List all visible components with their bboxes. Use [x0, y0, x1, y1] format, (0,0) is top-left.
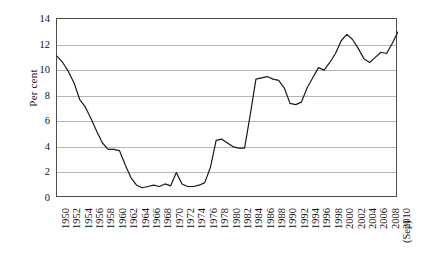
y-axis-tick-labels: 02468101214: [24, 11, 50, 201]
plot-area: [56, 18, 397, 197]
x-axis-tick-label: 1952: [71, 208, 82, 229]
x-axis-tick-label: 1970: [174, 208, 185, 229]
x-axis-tick-label: 1966: [151, 208, 162, 229]
x-axis-tick-label: 1988: [276, 208, 287, 229]
x-axis-tick-label: 1974: [196, 208, 207, 229]
x-axis-tick-label: 1976: [208, 208, 219, 229]
x-axis-tick-label: 1950: [60, 208, 71, 229]
x-axis-tick-label: 1980: [231, 208, 242, 229]
x-axis-tick-label: 1986: [265, 208, 276, 229]
x-axis-tick-label: 1956: [94, 208, 105, 229]
x-axis-tick-label: 1958: [105, 208, 116, 229]
x-axis-tick-labels: (Sep) 1950195219541956195819601962196419…: [56, 199, 397, 244]
x-axis-tick-label: 1990: [287, 208, 298, 229]
x-axis-tick-label: 2008: [390, 208, 401, 229]
x-axis-tick-label: 2006: [378, 208, 389, 229]
y-axis-tick-label: 10: [24, 64, 50, 75]
y-axis-tick-label: 8: [24, 89, 50, 100]
x-axis-tick-label: 2010: [401, 208, 412, 229]
y-axis-tick-label: 0: [24, 192, 50, 203]
x-axis-tick-label: 1984: [253, 208, 264, 229]
x-axis-tick-label: 1992: [299, 208, 310, 229]
x-axis-tick-label: 1994: [310, 208, 321, 229]
x-axis-tick-label: 1962: [128, 208, 139, 229]
x-axis-tick-label: 1954: [83, 208, 94, 229]
x-axis-tick-label: 1972: [185, 208, 196, 229]
y-axis-tick-label: 12: [24, 38, 50, 49]
y-axis-tick-label: 2: [24, 166, 50, 177]
x-axis-tick-label: 1978: [219, 208, 230, 229]
series-line-chart: [57, 19, 398, 198]
x-axis-tick-label: 1960: [117, 208, 128, 229]
x-axis-tick-label: 2004: [367, 208, 378, 229]
x-axis-tick-label: 1996: [321, 208, 332, 229]
y-axis-tick-label: 4: [24, 140, 50, 151]
x-axis-tick-label: 1982: [242, 208, 253, 229]
x-axis-tick-label: 1964: [140, 208, 151, 229]
x-axis-tick-label: 2002: [356, 208, 367, 229]
y-axis-tick-label: 6: [24, 115, 50, 126]
x-axis-tick-label: 1968: [162, 208, 173, 229]
x-axis-tick-label: 1998: [333, 208, 344, 229]
chart-figure: Per cent 02468101214 (Sep) 1950195219541…: [0, 0, 425, 265]
y-axis-tick-label: 14: [24, 13, 50, 24]
data-series-line: [57, 32, 398, 188]
x-axis-tick-label: 2000: [344, 208, 355, 229]
